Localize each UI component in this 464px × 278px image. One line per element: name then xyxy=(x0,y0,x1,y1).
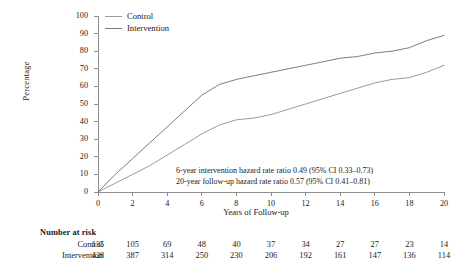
risk-cell: 114 xyxy=(431,251,457,261)
risk-cell: 105 xyxy=(120,240,146,250)
survival-curve-figure: Percentage 0102030405060708090100 024681… xyxy=(0,0,464,278)
legend-swatch-control-icon xyxy=(105,16,122,17)
chart-legend: Control Intervention xyxy=(105,11,169,35)
risk-cell: 14 xyxy=(431,240,457,250)
risk-cell: 37 xyxy=(258,240,284,250)
chart-canvas xyxy=(0,0,464,222)
risk-cell: 230 xyxy=(223,251,249,261)
risk-cell: 136 xyxy=(396,251,422,261)
legend-swatch-intervention-icon xyxy=(105,28,122,29)
legend-label-intervention: Intervention xyxy=(127,24,169,33)
risk-cell: 192 xyxy=(293,251,319,261)
risk-cell: 250 xyxy=(189,251,215,261)
risk-cell: 428 xyxy=(85,251,111,261)
plot-area: Percentage 0102030405060708090100 024681… xyxy=(0,0,464,222)
risk-cell: 314 xyxy=(154,251,180,261)
legend-label-control: Control xyxy=(127,12,153,21)
risk-cell: 387 xyxy=(120,251,146,261)
risk-cell: 48 xyxy=(189,240,215,250)
legend-item-control: Control xyxy=(105,11,169,22)
risk-cell: 69 xyxy=(154,240,180,250)
risk-cell: 27 xyxy=(327,240,353,250)
table-row: Intervention4283873142502302061921611471… xyxy=(0,251,464,262)
annotation-line-1: 6-year intervention hazard rate ratio 0.… xyxy=(176,166,373,177)
risk-cell: 206 xyxy=(258,251,284,261)
risk-cell: 135 xyxy=(85,240,111,250)
risk-cell: 161 xyxy=(327,251,353,261)
risk-table-title: Number at risk xyxy=(40,228,96,237)
hazard-ratio-annotation: 6-year intervention hazard rate ratio 0.… xyxy=(176,166,373,187)
risk-cell: 23 xyxy=(396,240,422,250)
risk-cell: 34 xyxy=(293,240,319,250)
table-row: Control135105694840373427272314 xyxy=(0,240,464,251)
legend-item-intervention: Intervention xyxy=(105,23,169,34)
risk-cell: 40 xyxy=(223,240,249,250)
annotation-line-2: 20-year follow-up hazard rate ratio 0.57… xyxy=(176,177,373,188)
risk-cell: 27 xyxy=(362,240,388,250)
risk-cell: 147 xyxy=(362,251,388,261)
